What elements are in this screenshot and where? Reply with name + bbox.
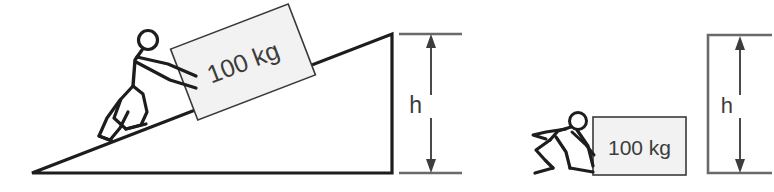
incline-scene: 100 kg [32,4,392,173]
incline-crate: 100 kg [171,4,316,120]
incline-height-label: h [409,92,422,118]
flat-figure-rear-leg [536,140,553,168]
flat-crate: 100 kg [593,117,686,175]
flat-stick-figure [533,113,594,174]
incline-figure-torso [133,50,142,86]
incline-figure-rear-leg [99,100,128,140]
flat-figure-back [577,130,593,166]
flat-push-scene: 100 kg [533,113,686,176]
flat-figure-front-leg [556,137,570,168]
flat-crate-label: 100 kg [608,136,671,159]
flat-height-dimension: h [708,35,772,173]
height-arrowhead-up [426,34,436,48]
diagram-canvas: 100 kg [0,0,774,192]
flat-figure-front-foot [570,168,593,172]
flat-height-label: h [721,93,733,118]
flat-figure-upper-arm [533,129,566,139]
physics-diagram: 100 kg [0,0,774,192]
incline-height-dimension: h [399,34,462,173]
flat-figure-rear-foot [535,168,553,173]
incline-figure-head [139,31,158,50]
height-arrowhead-down [426,159,436,173]
flat-height-arrowhead-down [735,159,745,173]
incline-figure-front-leg [114,86,147,129]
flat-height-arrowhead-up [735,36,745,50]
